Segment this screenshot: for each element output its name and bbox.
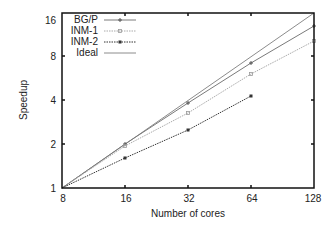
legend-label-inm2: INM-2: [71, 36, 99, 47]
series-inm2: [62, 95, 253, 189]
x-tick-label-64: 64: [246, 193, 258, 204]
x-tick-label-128: 128: [305, 193, 322, 204]
y-tick-label-16: 16: [45, 15, 57, 26]
x-tick-label-8: 8: [60, 193, 66, 204]
x-tick-label-16: 16: [120, 193, 132, 204]
x-axis-label: Number of cores: [151, 208, 225, 219]
legend: BG/P INM-1 INM-2 Ideal: [71, 14, 136, 58]
legend-label-ideal: Ideal: [76, 47, 98, 58]
legend-label-bgp: BG/P: [74, 14, 98, 25]
x-tick-label-32: 32: [183, 193, 195, 204]
series-inm1: [62, 40, 316, 189]
series-bgp: [62, 24, 316, 188]
legend-label-inm1: INM-1: [71, 25, 99, 36]
y-axis-label: Speedup: [18, 80, 29, 120]
y-tick-label-8: 8: [50, 51, 56, 62]
speedup-chart: 8 16 32 64 128 1 2 4 8 16 Number of core…: [0, 0, 336, 232]
y-tick-label-2: 2: [50, 139, 56, 150]
y-tick-label-4: 4: [50, 95, 56, 106]
y-tick-label-1: 1: [50, 183, 56, 194]
